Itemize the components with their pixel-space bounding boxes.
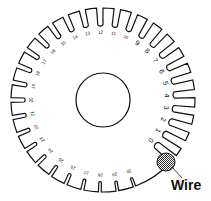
gauge-number: 12 (98, 30, 104, 35)
wire-gauge-diagram: 0123456789101112131415161718192021222324… (0, 0, 211, 201)
wire-cross-section (157, 153, 175, 171)
gauge-number: 20 (29, 97, 34, 103)
gauge-number: 4 (164, 93, 171, 97)
wire-label: Wire (171, 177, 201, 193)
gauge-number: 28 (97, 172, 103, 177)
